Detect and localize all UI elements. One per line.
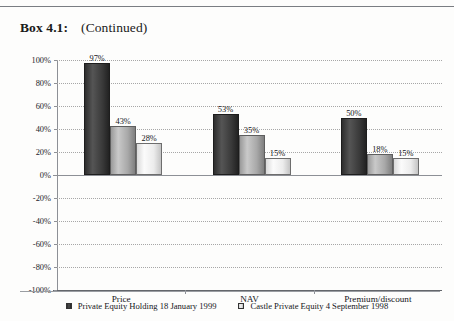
continued-label: (Continued) — [81, 20, 147, 35]
bar: 28% — [136, 143, 162, 175]
bar: 15% — [393, 158, 419, 175]
legend-swatch-icon — [66, 303, 72, 309]
page-title: Box 4.1:(Continued) — [20, 20, 147, 36]
legend-label: Castle Private Equity 4 September 1998 — [250, 301, 388, 311]
bar: 15% — [265, 158, 291, 175]
y-axis-tick-label: 100% — [31, 56, 51, 65]
y-axis-tick-label: 80% — [36, 79, 51, 88]
y-axis-tick-mark — [54, 152, 57, 153]
y-axis-tick-mark — [54, 83, 57, 84]
y-axis-tick-mark — [54, 175, 57, 176]
legend-swatch-icon — [238, 303, 244, 309]
legend-label: Private Equity Holding 18 January 1999 — [78, 301, 217, 311]
legend-separator-rule — [20, 291, 440, 292]
bar: 18% — [367, 154, 393, 175]
y-axis-tick-label: 40% — [36, 125, 51, 134]
bar-value-label: 15% — [270, 149, 285, 158]
bar-value-label: 18% — [372, 145, 387, 154]
bar: 43% — [110, 126, 136, 175]
y-axis-tick-label: -40% — [33, 217, 51, 226]
bar: 53% — [213, 114, 239, 175]
gridline — [57, 267, 442, 268]
page-top-rule — [0, 6, 454, 7]
gridline — [57, 60, 442, 61]
bar: 50% — [341, 118, 367, 176]
y-axis-tick-mark — [54, 221, 57, 222]
bar-value-label: 53% — [218, 105, 233, 114]
y-axis-tick-mark — [54, 129, 57, 130]
legend-item: Castle Private Equity 4 September 1998 — [238, 301, 388, 311]
zero-line — [53, 175, 442, 176]
bar-value-label: 15% — [398, 149, 413, 158]
y-axis-tick-label: -20% — [33, 194, 51, 203]
gridline — [57, 198, 442, 199]
gridline — [57, 83, 442, 84]
box-number-label: Box 4.1: — [20, 20, 68, 35]
legend-item: Private Equity Holding 18 January 1999 — [66, 301, 217, 311]
bar: 97% — [84, 63, 110, 175]
chart-legend: Private Equity Holding 18 January 1999Ca… — [0, 301, 454, 311]
y-axis-tick-label: -60% — [33, 240, 51, 249]
bar-value-label: 28% — [141, 134, 156, 143]
bar-value-label: 50% — [346, 109, 361, 118]
bar-chart: 100%80%60%40%20%0%-20%-40%-60%-80%-100% … — [0, 48, 454, 298]
y-axis-tick-label: -80% — [33, 263, 51, 272]
y-axis-tick-mark — [54, 198, 57, 199]
bar: 35% — [239, 135, 265, 175]
bar-value-label: 43% — [115, 117, 130, 126]
bar-value-label: 35% — [244, 126, 259, 135]
y-axis-tick-label: 20% — [36, 148, 51, 157]
y-axis-tick-label: 0% — [40, 171, 51, 180]
y-axis-tick-label: 60% — [36, 102, 51, 111]
plot-area: 100%80%60%40%20%0%-20%-40%-60%-80%-100% … — [57, 60, 442, 290]
bar-value-label: 97% — [89, 54, 104, 63]
y-axis-tick-mark — [54, 244, 57, 245]
gridline — [57, 106, 442, 107]
y-axis-tick-mark — [54, 60, 57, 61]
y-axis-tick-mark — [54, 267, 57, 268]
gridline — [57, 221, 442, 222]
gridline — [57, 244, 442, 245]
y-axis-tick-label: -100% — [29, 286, 51, 295]
y-axis-tick-mark — [54, 106, 57, 107]
